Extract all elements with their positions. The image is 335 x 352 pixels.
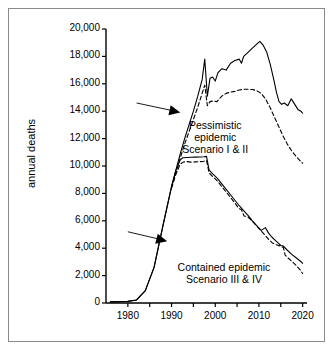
annotation-line: epidemic — [163, 131, 267, 143]
y-tick-label: 2,000 — [54, 269, 100, 280]
y-tick-label: 6,000 — [54, 214, 100, 225]
annotation-line: Pessimistic — [163, 119, 267, 131]
x-tick-label: 2000 — [193, 310, 237, 321]
y-tick-label: 14,000 — [54, 104, 100, 115]
pessimistic-arrow — [137, 103, 181, 115]
y-tick-label: 10,000 — [54, 159, 100, 170]
y-tick-label: 12,000 — [54, 132, 100, 143]
x-tick-label: 2010 — [237, 310, 281, 321]
y-tick-label: 20,000 — [54, 22, 100, 33]
x-tick-label: 1990 — [150, 310, 194, 321]
contained-label: Contained epidemicScenario III & IV — [172, 261, 276, 285]
y-tick-label: 0 — [54, 296, 100, 307]
annotation-line: Scenario III & IV — [172, 273, 276, 285]
series-line-3 — [172, 161, 303, 274]
annotation-line: Scenario I & II — [163, 143, 267, 155]
annotation-line: Contained epidemic — [172, 261, 276, 273]
x-tick-label: 1980 — [106, 310, 150, 321]
y-tick-label: 18,000 — [54, 49, 100, 60]
pessimistic-label: PessimisticepidemicScenario I & II — [163, 119, 267, 155]
x-tick-label: 2020 — [281, 310, 325, 321]
figure-frame: annual deaths 02,0004,0006,0008,00010,00… — [8, 8, 325, 342]
y-tick-label: 8,000 — [54, 186, 100, 197]
y-axis-title: annual deaths — [25, 119, 37, 188]
y-tick-label: 16,000 — [54, 77, 100, 88]
y-tick-label: 4,000 — [54, 241, 100, 252]
